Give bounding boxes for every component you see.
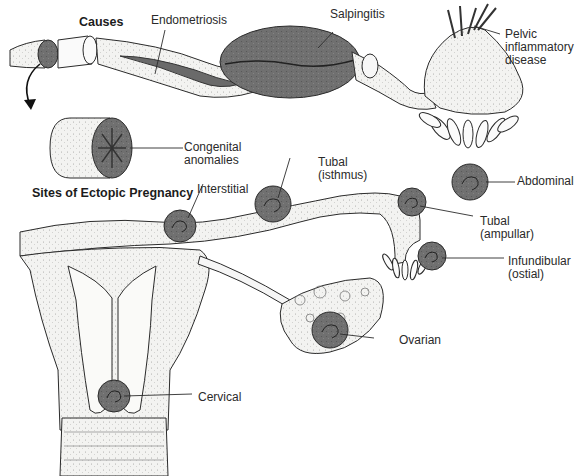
label-congenital-anomalies: Congenital anomalies [184,141,241,167]
causes-heading: Causes [79,15,123,29]
ovarian-sac-icon [312,312,348,348]
ampullar-sac-icon [398,188,426,216]
label-cervical: Cervical [198,391,241,404]
abdominal-sac-icon [452,164,488,200]
sites-heading: Sites of Ectopic Pregnancy [32,186,193,200]
interstitial-sac-icon [164,210,196,242]
uterus-illustration [20,193,430,476]
label-infundibular-ostial: Infundibular (ostial) [508,255,571,281]
label-tubal-ampullar: Tubal (ampullar) [480,215,534,241]
curved-arrow-icon [24,64,40,110]
congenital-cylinder-illustration [50,118,132,178]
label-salpingitis: Salpingitis [330,8,385,21]
infundibular-sac-icon [418,242,446,270]
label-abdominal: Abdominal [517,175,574,188]
label-ovarian: Ovarian [399,334,441,347]
isthmus-sac-icon [255,186,291,222]
label-interstitial: Interstitial [197,183,248,196]
label-endometriosis: Endometriosis [151,14,227,27]
label-pelvic-inflammatory-disease: Pelvic inflammatory disease [505,28,574,67]
label-tubal-isthmus: Tubal (isthmus) [318,156,367,182]
ectopic-pregnancy-diagram: Causes Sites of Ectopic Pregnancy Endome… [0,0,587,476]
